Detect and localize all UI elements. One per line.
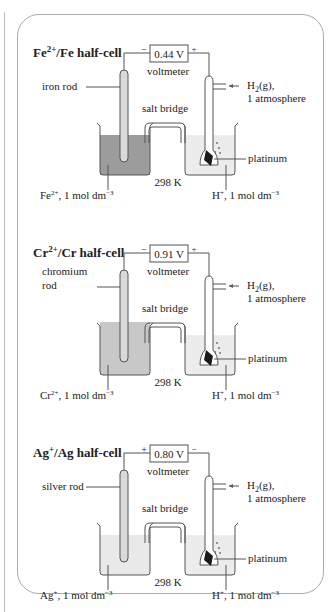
- salt-bridge-outer: [145, 523, 185, 543]
- cell-fe: Fe2+/Fe half-cell0.44 V−+voltmeteriron r…: [33, 44, 306, 201]
- cell-title: Fe2+/Fe half-cell: [33, 44, 122, 60]
- voltmeter-label: voltmeter: [147, 465, 189, 477]
- left-solution-label: Cr2+, 1 mol dm−3: [40, 389, 114, 401]
- right-conc: , 1 mol dm: [224, 389, 272, 401]
- gas-bubble: [214, 351, 216, 353]
- right-wire: [188, 253, 209, 276]
- gas-rest: (g),: [259, 79, 275, 92]
- cell-ag: Ag+/Ag half-cell0.80 V+−voltmetersilver …: [33, 444, 306, 601]
- right-conc: , 1 mol dm: [224, 189, 272, 201]
- salt-bridge-outer: [145, 123, 185, 143]
- right-ion: H: [212, 389, 220, 401]
- cell-title: Ag+/Ag half-cell: [33, 444, 122, 460]
- voltmeter-label: voltmeter: [147, 65, 189, 77]
- gas-arrow-icon: [229, 284, 233, 288]
- voltage-reading: 0.80 V: [154, 448, 184, 460]
- left-ion-charge: 2+: [51, 389, 59, 397]
- title-charge: 2+: [47, 44, 57, 54]
- left-ion: Fe: [40, 189, 51, 201]
- platinum-label: platinum: [248, 552, 288, 564]
- gas-bubble: [218, 347, 220, 349]
- salt-bridge-label: salt bridge: [142, 102, 188, 114]
- left-ion-charge: 2+: [51, 189, 59, 197]
- electrochemical-cells-diagram: Fe2+/Fe half-cell0.44 V−+voltmeteriron r…: [0, 0, 336, 612]
- title-element: Cr: [33, 245, 48, 260]
- left-conc: , 1 mol dm: [58, 189, 106, 201]
- salt-bridge-label: salt bridge: [142, 302, 188, 314]
- metal-rod: [120, 70, 128, 162]
- gas-bubble: [218, 147, 220, 149]
- right-ion: H: [212, 189, 220, 201]
- left-conc-exp: −3: [106, 389, 114, 397]
- title-element: Fe: [33, 45, 47, 60]
- gas-h: H: [247, 479, 255, 491]
- rod-label-line2: rod: [42, 279, 57, 291]
- right-wire: [188, 453, 209, 476]
- title-rest: /Ag half-cell: [53, 445, 122, 460]
- left-conc: , 1 mol dm: [58, 389, 106, 401]
- title-element: Ag: [33, 445, 49, 460]
- gas-inlet-tube: [213, 84, 226, 89]
- left-conc-exp: −3: [105, 589, 113, 597]
- gas-rest: (g),: [259, 479, 275, 492]
- gas-bubble: [216, 142, 218, 144]
- right-conc: , 1 mol dm: [224, 589, 272, 601]
- right-solution-label: H+, 1 mol dm−3: [212, 189, 280, 201]
- right-wire: [188, 53, 209, 76]
- gas-pressure-label: 1 atmosphere: [247, 92, 306, 104]
- salt-bridge-inner: [149, 327, 181, 343]
- right-solution-label: H+, 1 mol dm−3: [212, 589, 280, 601]
- gas-pressure-label: 1 atmosphere: [247, 492, 306, 504]
- gas-bubble: [214, 551, 216, 553]
- right-conc-exp: −3: [272, 589, 280, 597]
- platinum-label: platinum: [248, 152, 288, 164]
- gas-pressure-label: 1 atmosphere: [247, 292, 306, 304]
- rod-label-line1: chromium: [42, 265, 88, 277]
- gas-bubble: [214, 151, 216, 153]
- gas-bubble: [219, 152, 221, 154]
- rod-label-line1: silver rod: [42, 480, 84, 492]
- gas-bubble: [216, 342, 218, 344]
- salt-bridge-inner: [149, 127, 181, 143]
- left-conc: , 1 mol dm: [57, 589, 105, 601]
- salt-bridge-label: salt bridge: [142, 502, 188, 514]
- left-ion: Cr: [40, 389, 51, 401]
- title-rest: /Fe half-cell: [55, 45, 122, 60]
- temperature-label: 298 K: [154, 376, 181, 388]
- cell-title: Cr2+/Cr half-cell: [33, 244, 125, 260]
- gas-rest: (g),: [259, 279, 275, 292]
- gas-arrow-icon: [229, 84, 233, 88]
- gas-bubble: [218, 547, 220, 549]
- gas-bubble: [219, 352, 221, 354]
- salt-bridge-inner: [149, 527, 181, 543]
- right-solution-label: H+, 1 mol dm−3: [212, 389, 280, 401]
- temperature-label: 298 K: [154, 176, 181, 188]
- left-ion: Ag: [40, 589, 54, 601]
- right-ion: H: [212, 589, 220, 601]
- rod-label: iron rod: [42, 80, 78, 92]
- left-solution-label: Ag+, 1 mol dm−3: [40, 589, 113, 601]
- left-conc-exp: −3: [106, 189, 114, 197]
- gas-h: H: [247, 279, 255, 291]
- voltage-reading: 0.91 V: [154, 248, 184, 260]
- gas-arrow-icon: [229, 484, 233, 488]
- title-rest: /Cr half-cell: [57, 245, 125, 260]
- gas-inlet-tube: [213, 484, 226, 489]
- gas-h: H: [247, 79, 255, 91]
- rod-label: silver rod: [42, 480, 84, 492]
- voltmeter-label: voltmeter: [147, 265, 189, 277]
- metal-rod: [120, 270, 128, 362]
- salt-bridge-outer: [145, 323, 185, 343]
- right-conc-exp: −3: [272, 389, 280, 397]
- platinum-label: platinum: [248, 352, 288, 364]
- gas-inlet-tube: [213, 284, 226, 289]
- cell-cr: Cr2+/Cr half-cell0.91 V−+voltmeterchromi…: [33, 244, 306, 401]
- rod-label-line1: iron rod: [42, 80, 78, 92]
- left-solution-label: Fe2+, 1 mol dm−3: [40, 189, 114, 201]
- gas-bubble: [216, 542, 218, 544]
- title-charge: 2+: [48, 244, 58, 254]
- voltage-reading: 0.44 V: [154, 48, 184, 60]
- rod-label: chromiumrod: [42, 265, 88, 291]
- right-conc-exp: −3: [272, 189, 280, 197]
- temperature-label: 298 K: [154, 576, 181, 588]
